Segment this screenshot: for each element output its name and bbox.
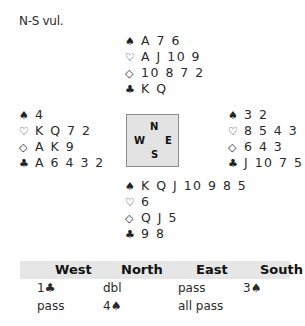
compass-box: N W E S (126, 114, 179, 167)
spade-icon: ♠ (19, 108, 35, 124)
heart-icon: ♡ (19, 124, 35, 140)
bidding-row: 1♣ dbl pass 3♠ (0, 281, 305, 298)
east-hearts: ♡8 5 4 3 (228, 123, 303, 139)
compass-south: S (151, 149, 158, 160)
bid-east: pass (178, 281, 205, 295)
header-south: South (260, 262, 303, 277)
bid-south: 3♠ (243, 281, 261, 295)
vulnerability-label: N-S vul. (19, 14, 63, 28)
diamond-icon: ◇ (125, 211, 141, 227)
west-spades: ♠4 (19, 107, 105, 123)
club-icon: ♣ (19, 156, 35, 172)
compass-west: W (134, 135, 145, 146)
south-diamonds: ◇Q J 5 (125, 210, 247, 226)
bidding-header: West North East South (20, 261, 290, 279)
north-diamonds: ◇10 8 7 2 (125, 65, 205, 81)
east-diamonds: ◇6 4 3 (228, 139, 303, 155)
north-clubs: ♣K Q (125, 81, 205, 97)
south-hearts: ♡6 (125, 194, 247, 210)
bidding-row: pass 4♠ all pass (0, 299, 305, 316)
bid-east: all pass (178, 299, 223, 313)
header-north: North (121, 262, 163, 277)
spade-icon: ♠ (125, 179, 141, 195)
bid-north: dbl (103, 281, 122, 295)
header-east: East (196, 262, 228, 277)
south-hand: ♠K Q J 10 9 8 5 ♡6 ◇Q J 5 ♣9 8 (125, 178, 247, 242)
south-spades: ♠K Q J 10 9 8 5 (125, 178, 247, 194)
north-hearts: ♡A J 10 9 (125, 49, 205, 65)
east-hand: ♠3 2 ♡8 5 4 3 ◇6 4 3 ♣J 10 7 5 (228, 107, 303, 171)
west-diamonds: ◇A K 9 (19, 139, 105, 155)
north-spades: ♠A 7 6 (125, 33, 205, 49)
heart-icon: ♡ (125, 195, 141, 211)
club-icon: ♣ (125, 82, 141, 98)
heart-icon: ♡ (228, 124, 244, 140)
west-hearts: ♡K Q 7 2 (19, 123, 105, 139)
club-icon: ♣ (125, 227, 141, 243)
south-clubs: ♣9 8 (125, 226, 247, 242)
compass-north: N (150, 121, 158, 132)
diamond-icon: ◇ (125, 66, 141, 82)
heart-icon: ♡ (125, 50, 141, 66)
spade-icon: ♠ (125, 34, 141, 50)
compass-east: E (165, 135, 172, 146)
spade-icon: ♠ (228, 108, 244, 124)
diamond-icon: ◇ (19, 140, 35, 156)
bid-west: 1♣ (37, 281, 55, 295)
west-clubs: ♣A 6 4 3 2 (19, 155, 105, 171)
header-west: West (55, 262, 92, 277)
bid-north: 4♠ (103, 299, 121, 313)
east-spades: ♠3 2 (228, 107, 303, 123)
east-clubs: ♣J 10 7 5 (228, 155, 303, 171)
diamond-icon: ◇ (228, 140, 244, 156)
west-hand: ♠4 ♡K Q 7 2 ◇A K 9 ♣A 6 4 3 2 (19, 107, 105, 171)
north-hand: ♠A 7 6 ♡A J 10 9 ◇10 8 7 2 ♣K Q (125, 33, 205, 97)
club-icon: ♣ (228, 156, 244, 172)
bid-west: pass (37, 299, 64, 313)
